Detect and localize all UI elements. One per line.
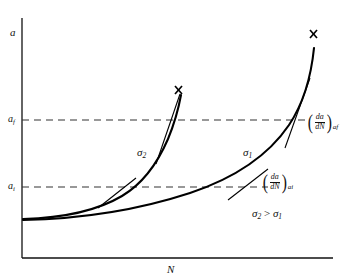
tangent-sigma2-ai xyxy=(98,178,136,208)
rate-label-ai: ( da dN ) ai xyxy=(262,172,293,192)
stress-inequality: σ2 > σ1 xyxy=(252,208,282,221)
y-tick-af-sub: f xyxy=(13,118,15,125)
axes-group xyxy=(22,18,333,258)
rate-ai-subscript: ai xyxy=(288,183,293,193)
rate-ai-fraction: da dN xyxy=(269,173,281,191)
y-tick-label-ai: ai xyxy=(8,181,15,193)
curve-label-sigma1: σ1 xyxy=(243,147,252,160)
rate-af-fraction: da dN xyxy=(314,113,326,131)
y-axis-label: a xyxy=(10,27,16,38)
failure-marker-sigma1 xyxy=(310,30,317,38)
rate-af-close-paren: ) xyxy=(327,112,332,132)
rate-af-subscript: af xyxy=(333,123,338,133)
rate-ai-denominator: dN xyxy=(269,183,280,192)
sigma2-sub: 2 xyxy=(142,151,146,160)
y-tick-label-af: af xyxy=(8,114,15,126)
rate-ai-close-paren: ) xyxy=(282,172,287,192)
curve-label-sigma2: σ2 xyxy=(137,147,146,160)
ineq-right-sub: 1 xyxy=(278,212,282,221)
rate-label-af: ( da dN ) af xyxy=(307,112,338,132)
y-tick-ai-sub: i xyxy=(13,185,15,192)
rate-ai-open-paren: ( xyxy=(263,172,268,192)
curve-sigma1 xyxy=(23,48,314,220)
crack-growth-figure: a N af ai σ2 σ1 ( da dN ) af ( da dN ) a… xyxy=(0,0,343,280)
x-axis-label: N xyxy=(167,264,174,275)
rate-af-open-paren: ( xyxy=(308,112,313,132)
sigma1-sub: 1 xyxy=(248,151,252,160)
curve-sigma2 xyxy=(23,95,181,219)
plot-canvas xyxy=(0,0,343,280)
tangent-sigma2-af xyxy=(156,94,180,164)
curve-sigma2-group xyxy=(23,86,182,219)
failure-marker-sigma2 xyxy=(175,86,182,94)
rate-af-denominator: dN xyxy=(314,123,325,132)
